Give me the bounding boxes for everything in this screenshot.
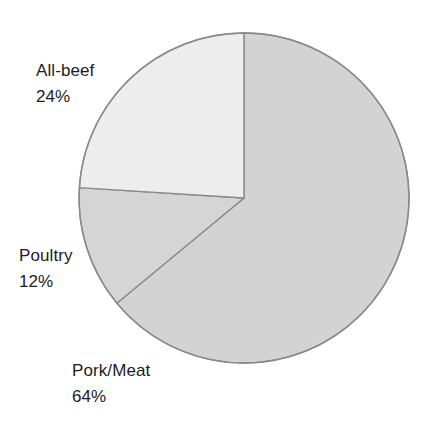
pie-label-poultry: Poultry 12% xyxy=(19,243,73,296)
pie-label-pork-meat-name: Pork/Meat xyxy=(72,358,150,384)
pie-label-all-beef-value: 24% xyxy=(36,84,94,110)
pie-label-pork-meat-value: 64% xyxy=(72,384,150,410)
pie-label-poultry-value: 12% xyxy=(19,269,73,295)
pie-label-poultry-name: Poultry xyxy=(19,243,73,269)
pie-chart-figure: All-beef 24% Poultry 12% Pork/Meat 64% xyxy=(0,0,426,430)
pie-slice-all-beef[interactable] xyxy=(79,33,244,198)
pie-label-pork-meat: Pork/Meat 64% xyxy=(72,358,150,411)
pie-label-all-beef-name: All-beef xyxy=(36,58,94,84)
pie-label-all-beef: All-beef 24% xyxy=(36,58,94,111)
